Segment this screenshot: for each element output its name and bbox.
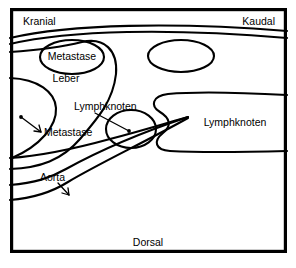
annotation-label-lymphknoten-right: Lymphknoten [204, 116, 267, 128]
oval-top-right [148, 40, 214, 72]
annotation-label-metastase-liver-left: Metastase [44, 126, 93, 138]
diagram-canvas: Kranial Kaudal Dorsal Metastase Leber Me… [0, 0, 296, 268]
leader-line-metastase-liver-left [21, 117, 41, 132]
annotation-label-leber: Leber [53, 72, 80, 84]
orientation-label-caudal: Kaudal [242, 15, 275, 27]
aorta-lower-edge [10, 117, 188, 185]
orientation-label-dorsal: Dorsal [133, 236, 163, 248]
leader-endpoint-dot-metastase-liver-left [19, 115, 23, 119]
top-band-curve [10, 32, 287, 44]
liver-left-lobe-outline [10, 78, 56, 158]
leader-endpoint-dot-lymphknoten-center [127, 129, 131, 133]
annotation-label-metastase-liver-top: Metastase [48, 50, 97, 62]
anatomical-diagram: Kranial Kaudal Dorsal Metastase Leber Me… [0, 0, 296, 268]
annotation-group-metastase-liver-left: Metastase [19, 115, 92, 138]
orientation-label-cranial: Kranial [23, 15, 56, 27]
annotation-label-aorta: Aorta [40, 171, 65, 183]
annotation-label-lymphknoten-center: Lymphknoten [74, 100, 137, 112]
aorta-lower-band-edge [10, 118, 188, 200]
